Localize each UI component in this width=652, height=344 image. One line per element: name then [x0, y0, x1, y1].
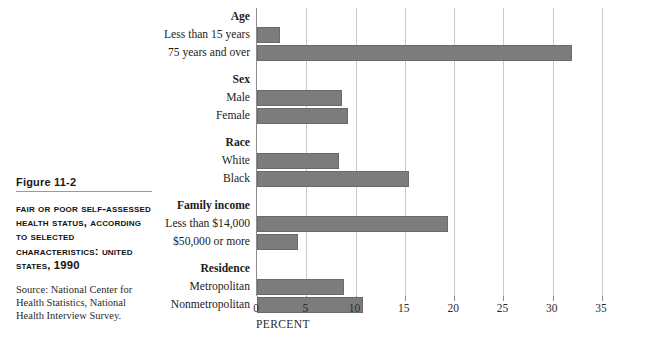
category-label: $50,000 or more: [173, 233, 250, 251]
group-header-row: Race: [156, 134, 256, 152]
bar: [257, 216, 448, 232]
bar-row: [257, 170, 602, 188]
figure-source-note: Source: National Center for Health Stati…: [16, 283, 152, 323]
x-axis-tick-label: 5: [302, 302, 308, 314]
group-header-row: Family income: [156, 197, 256, 215]
x-axis-title: PERCENT: [256, 318, 310, 330]
category-row: Nonmetropolitan: [156, 296, 256, 314]
figure-page: Figure 11-2 Fair or Poor Self-assessed H…: [0, 0, 652, 344]
bar-row: [257, 26, 602, 44]
bar: [257, 90, 342, 106]
category-label: Metropolitan: [189, 278, 250, 296]
bar-chart: AgeLess than 15 years75 years and overSe…: [156, 8, 644, 338]
category-label: Less than $14,000: [165, 215, 250, 233]
gridline: [602, 8, 603, 296]
x-axis-tick-label: 20: [447, 302, 459, 314]
category-label: Female: [216, 107, 250, 125]
bar-row: [257, 233, 602, 251]
x-axis-tick-label: 25: [497, 302, 509, 314]
bar-row: [257, 152, 602, 170]
category-row: Male: [156, 89, 256, 107]
category-row: White: [156, 152, 256, 170]
bar: [257, 27, 280, 43]
plot-area: [256, 8, 602, 296]
group-header-row: Sex: [156, 71, 256, 89]
x-axis-tick-mark: [602, 296, 603, 301]
bar: [257, 171, 409, 187]
x-axis-tick-label: 35: [595, 302, 607, 314]
x-axis-tick-label: 30: [546, 302, 558, 314]
bar: [257, 234, 298, 250]
group-header-row: Age: [156, 8, 256, 26]
group-header-row: Residence: [156, 260, 256, 278]
bar-row: [257, 215, 602, 233]
bar: [257, 45, 572, 61]
group-label: Race: [226, 134, 250, 152]
category-row: Black: [156, 170, 256, 188]
category-label: White: [222, 152, 250, 170]
figure-number: Figure 11-2: [16, 176, 152, 192]
bar-row: [257, 107, 602, 125]
x-axis-tick-label: 10: [349, 302, 361, 314]
bar-row: [257, 44, 602, 62]
category-label: Black: [223, 170, 250, 188]
category-row: $50,000 or more: [156, 233, 256, 251]
category-label: 75 years and over: [168, 44, 250, 62]
category-label: Nonmetropolitan: [171, 296, 250, 314]
category-row: Less than 15 years: [156, 26, 256, 44]
bar: [257, 279, 344, 295]
bar-row: [257, 278, 602, 296]
figure-title: Fair or Poor Self-assessed Health Status…: [16, 201, 152, 272]
group-label: Residence: [200, 260, 250, 278]
x-axis-tick-label: 0: [253, 302, 259, 314]
category-row: Metropolitan: [156, 278, 256, 296]
category-row: Female: [156, 107, 256, 125]
figure-caption: Figure 11-2 Fair or Poor Self-assessed H…: [16, 176, 152, 323]
category-row: Less than $14,000: [156, 215, 256, 233]
bar: [257, 153, 339, 169]
group-label: Family income: [177, 197, 250, 215]
category-label-column: AgeLess than 15 years75 years and overSe…: [156, 8, 256, 296]
group-label: Age: [231, 8, 250, 26]
bar-row: [257, 89, 602, 107]
x-axis-tick-label: 15: [398, 302, 410, 314]
category-label: Less than 15 years: [164, 26, 250, 44]
x-axis-tick-labels: 05101520253035: [256, 302, 601, 318]
category-label: Male: [226, 89, 250, 107]
group-label: Sex: [233, 71, 250, 89]
category-row: 75 years and over: [156, 44, 256, 62]
bar: [257, 108, 348, 124]
